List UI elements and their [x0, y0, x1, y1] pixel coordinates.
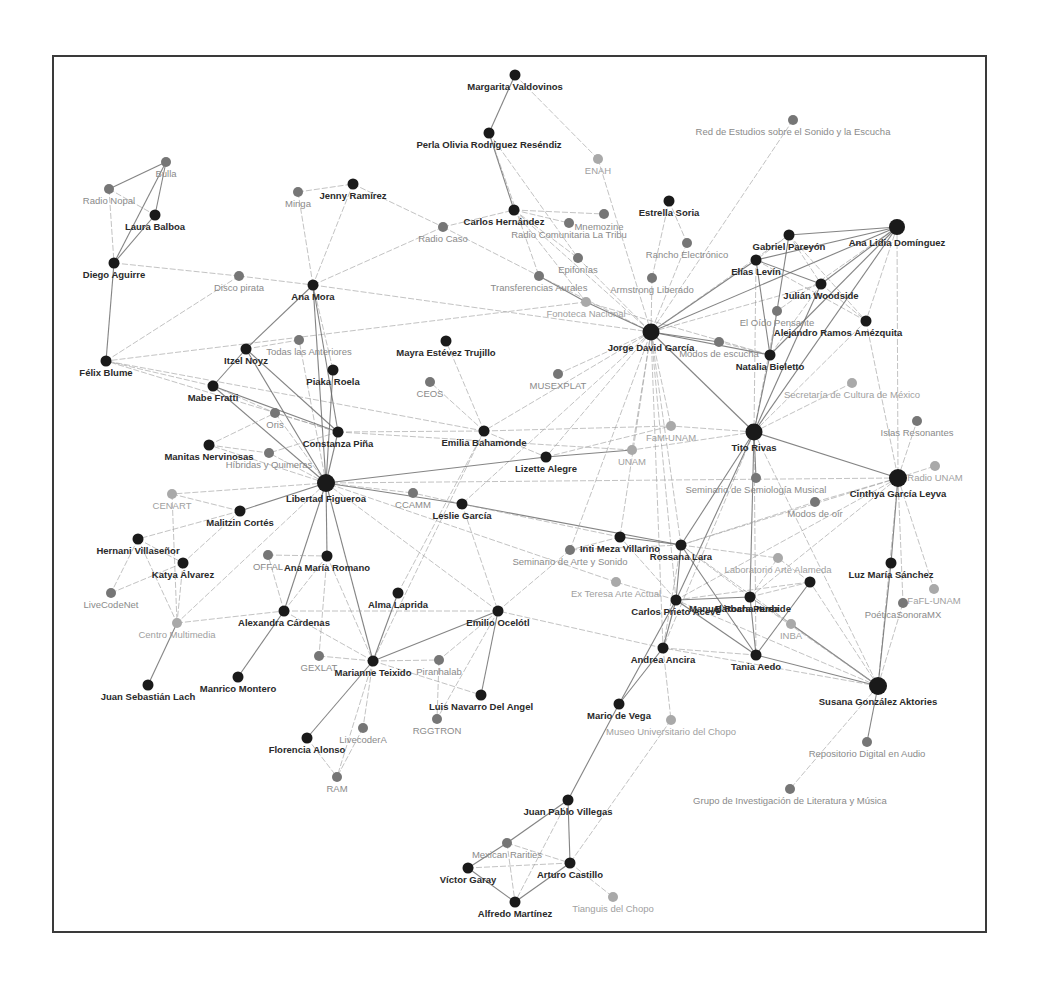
- node-inti[interactable]: [615, 532, 626, 543]
- node-repositorio[interactable]: [862, 737, 872, 747]
- node-carlosprieto[interactable]: [671, 595, 682, 606]
- node-cenart[interactable]: [167, 489, 177, 499]
- node-semarte[interactable]: [565, 545, 575, 555]
- node-manuel[interactable]: [745, 592, 756, 603]
- node-lizette[interactable]: [541, 452, 552, 463]
- network-graph[interactable]: Margarita ValdovinosPerla Olivia Rodrígu…: [0, 0, 1044, 998]
- node-oidopensante[interactable]: [772, 306, 782, 316]
- node-radiounam[interactable]: [930, 461, 940, 471]
- node-margarita[interactable]: [510, 70, 521, 81]
- node-grupoinvest[interactable]: [785, 784, 795, 794]
- node-luzmaria[interactable]: [886, 558, 897, 569]
- node-cinthya[interactable]: [889, 469, 907, 487]
- node-piranhalab[interactable]: [434, 655, 444, 665]
- node-islas[interactable]: [912, 416, 922, 426]
- node-diego[interactable]: [109, 258, 120, 269]
- node-arturo[interactable]: [565, 858, 576, 869]
- node-constanza[interactable]: [333, 427, 344, 438]
- node-mayra[interactable]: [441, 336, 452, 347]
- node-laura[interactable]: [150, 210, 161, 221]
- node-tito[interactable]: [746, 424, 763, 441]
- node-transferencias[interactable]: [534, 271, 544, 281]
- node-manitas[interactable]: [204, 440, 215, 451]
- node-emilio[interactable]: [493, 606, 504, 617]
- node-tania[interactable]: [751, 650, 762, 661]
- node-marianne[interactable]: [368, 656, 379, 667]
- node-unam[interactable]: [627, 445, 637, 455]
- node-juanpablo[interactable]: [563, 795, 574, 806]
- node-alma[interactable]: [393, 588, 404, 599]
- node-analidia[interactable]: [889, 219, 905, 235]
- node-luisnavarro[interactable]: [476, 690, 487, 701]
- node-mnemozine[interactable]: [599, 209, 609, 219]
- node-mexicanrarities[interactable]: [502, 838, 512, 848]
- node-livecodenet[interactable]: [106, 588, 116, 598]
- node-barbara[interactable]: [805, 577, 816, 588]
- node-rancho[interactable]: [682, 238, 692, 248]
- node-anamaria[interactable]: [322, 551, 333, 562]
- node-fonoteca[interactable]: [581, 297, 591, 307]
- node-rggtron[interactable]: [432, 714, 442, 724]
- node-ram[interactable]: [332, 772, 342, 782]
- node-inba[interactable]: [786, 619, 796, 629]
- node-anamora[interactable]: [308, 280, 319, 291]
- node-itzel[interactable]: [241, 344, 252, 355]
- node-minga[interactable]: [293, 187, 303, 197]
- node-modosoir[interactable]: [810, 497, 820, 507]
- node-discopirata[interactable]: [234, 271, 244, 281]
- node-alexandra[interactable]: [279, 606, 290, 617]
- node-secretaria[interactable]: [847, 378, 857, 388]
- node-offal[interactable]: [263, 550, 273, 560]
- node-andrea[interactable]: [658, 643, 669, 654]
- node-manrico[interactable]: [233, 672, 244, 683]
- node-modosescucha[interactable]: [714, 337, 724, 347]
- node-radiocaso[interactable]: [438, 222, 448, 232]
- node-tianguis[interactable]: [608, 892, 618, 902]
- node-enah[interactable]: [593, 154, 603, 164]
- node-semiologia[interactable]: [751, 473, 761, 483]
- node-alejandro[interactable]: [861, 316, 872, 327]
- node-gabriel[interactable]: [784, 230, 795, 241]
- node-elias[interactable]: [751, 255, 762, 266]
- node-carloshernandez[interactable]: [509, 205, 520, 216]
- node-libertad[interactable]: [317, 474, 335, 492]
- node-radiotribu[interactable]: [564, 218, 574, 228]
- node-susana[interactable]: [869, 677, 887, 695]
- node-extersa[interactable]: [611, 577, 621, 587]
- node-oris[interactable]: [270, 408, 280, 418]
- node-juanseb[interactable]: [143, 680, 154, 691]
- node-musexplat[interactable]: [553, 369, 563, 379]
- node-emilia[interactable]: [479, 426, 490, 437]
- node-centromultimedia[interactable]: [172, 618, 182, 628]
- node-famunam[interactable]: [666, 421, 676, 431]
- node-natalia[interactable]: [765, 350, 776, 361]
- node-museochopo[interactable]: [666, 715, 676, 725]
- node-ccamm[interactable]: [408, 488, 418, 498]
- node-livecodera[interactable]: [358, 723, 368, 733]
- node-hibridas[interactable]: [264, 448, 274, 458]
- node-ceos[interactable]: [425, 377, 435, 387]
- node-mariodevega[interactable]: [614, 699, 625, 710]
- node-epifonias[interactable]: [573, 253, 583, 263]
- node-malitzin[interactable]: [235, 506, 246, 517]
- node-armstrong[interactable]: [647, 273, 657, 283]
- node-hernani[interactable]: [133, 534, 144, 545]
- node-labarte[interactable]: [773, 553, 783, 563]
- node-mabe[interactable]: [208, 381, 219, 392]
- node-leslie[interactable]: [457, 499, 468, 510]
- node-bulla[interactable]: [161, 157, 171, 167]
- node-radionopal[interactable]: [104, 184, 114, 194]
- node-julian[interactable]: [816, 279, 827, 290]
- node-felix[interactable]: [101, 356, 112, 367]
- node-jenny[interactable]: [348, 179, 359, 190]
- node-estrella[interactable]: [664, 196, 675, 207]
- node-todas[interactable]: [294, 335, 304, 345]
- node-fafl[interactable]: [929, 584, 939, 594]
- node-gexlat[interactable]: [314, 651, 324, 661]
- node-jorge[interactable]: [643, 324, 660, 341]
- node-katya[interactable]: [178, 558, 189, 569]
- node-florencia[interactable]: [302, 733, 313, 744]
- node-piaka[interactable]: [328, 365, 339, 376]
- node-victor[interactable]: [463, 863, 474, 874]
- node-rossana[interactable]: [676, 540, 687, 551]
